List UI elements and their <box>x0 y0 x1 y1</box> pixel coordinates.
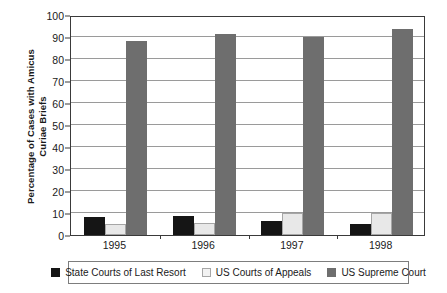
legend-item: US Courts of Appeals <box>202 267 312 278</box>
x-axis-labels: 1995199619971998 <box>70 239 425 255</box>
plot-area <box>70 16 425 236</box>
y-axis-tick-label: 70 <box>52 76 64 88</box>
gray-square-swatch <box>327 268 336 277</box>
bar-group-1996 <box>173 17 236 235</box>
white-square-swatch <box>202 268 211 277</box>
bar <box>303 37 324 235</box>
y-axis-ticks: 0102030405060708090100 <box>40 16 70 236</box>
chart-legend: State Courts of Last ResortUS Courts of … <box>68 261 409 284</box>
legend-item: US Supreme Court <box>327 267 425 278</box>
bar <box>105 224 126 235</box>
bar <box>371 213 392 235</box>
y-axis-tick-label: 90 <box>52 32 64 44</box>
y-axis-tick-label: 100 <box>46 10 64 22</box>
x-axis-tick-label: 1998 <box>369 239 392 251</box>
bar-group-1997 <box>261 17 324 235</box>
y-axis-tick-label: 60 <box>52 98 64 110</box>
y-axis-tick-label: 50 <box>52 120 64 132</box>
bars-layer <box>71 17 424 235</box>
x-axis-tick-label: 1995 <box>103 239 126 251</box>
x-axis-tick-label: 1997 <box>280 239 303 251</box>
bar <box>215 34 236 235</box>
bar-group-1998 <box>350 17 413 235</box>
bar <box>84 217 105 235</box>
y-axis-tick-label: 0 <box>58 230 64 242</box>
y-axis-tick-label: 40 <box>52 142 64 154</box>
bar <box>173 216 194 235</box>
legend-item-label: US Courts of Appeals <box>216 267 312 278</box>
bar <box>126 41 147 235</box>
bar <box>282 213 303 235</box>
y-axis-tick-label: 30 <box>52 164 64 176</box>
bar-chart-figure: Percentage of Cases with Amicus Curiae B… <box>0 0 447 293</box>
black-square-swatch <box>51 268 60 277</box>
y-axis-title-line1: Percentage of Cases with Amicus <box>25 49 36 204</box>
legend-item: State Courts of Last Resort <box>51 267 186 278</box>
bar <box>392 29 413 235</box>
y-axis-tick-label: 10 <box>52 208 64 220</box>
legend-item-label: State Courts of Last Resort <box>65 267 186 278</box>
y-axis-tick-label: 80 <box>52 54 64 66</box>
x-axis-tick-label: 1996 <box>191 239 214 251</box>
bar <box>350 224 371 235</box>
bar <box>261 221 282 235</box>
legend-item-label: US Supreme Court <box>341 267 425 278</box>
y-axis-tick-label: 20 <box>52 186 64 198</box>
bar-group-1995 <box>84 17 147 235</box>
bar <box>194 223 215 235</box>
